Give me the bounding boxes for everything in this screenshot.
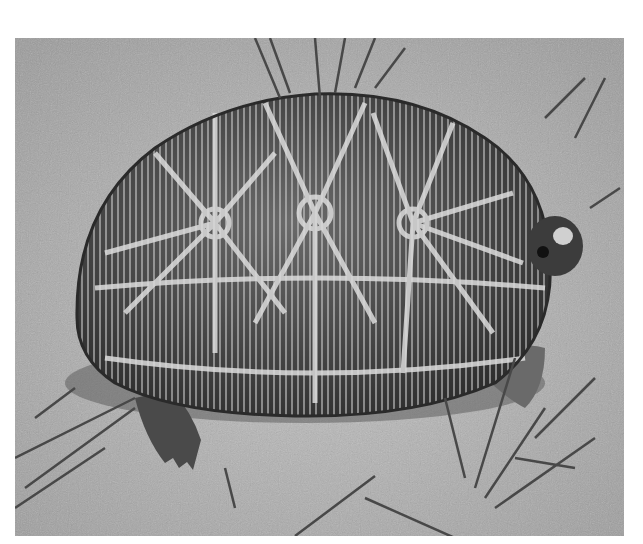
tortoise-photo xyxy=(15,38,624,536)
tortoise-head xyxy=(527,216,583,276)
tortoise-illustration xyxy=(15,38,624,536)
